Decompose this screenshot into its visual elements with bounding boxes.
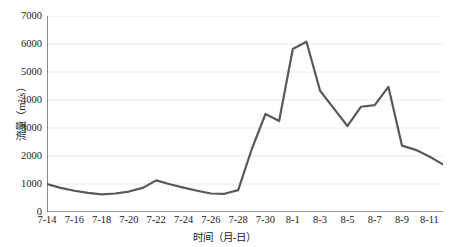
x-axis-title: 时间（月-日） [0,229,449,244]
y-axis-tick-labels: 01000200030004000500060007000 [6,0,42,247]
x-tick-label: 7-20 [119,214,138,225]
x-tick-label: 7-16 [65,214,84,225]
chart-svg [47,16,443,212]
x-tick-label: 7-18 [92,214,111,225]
y-tick-label: 3000 [8,123,42,133]
x-axis-tick-labels: 7-147-167-187-207-227-247-267-287-308-18… [47,214,443,230]
discharge-series-line [47,42,443,195]
x-tick-label: 7-26 [201,214,220,225]
x-tick-label: 8-11 [420,214,439,225]
x-tick-label: 8-9 [395,214,409,225]
x-tick-label: 8-1 [286,214,300,225]
y-tick-label: 2000 [8,151,42,161]
plot-area [47,16,443,212]
y-tick-label: 5000 [8,67,42,77]
x-tick-label: 8-3 [313,214,327,225]
x-tick-label: 7-22 [147,214,166,225]
x-tick-label: 7-14 [37,214,56,225]
y-tick-label: 6000 [8,39,42,49]
x-tick-label: 8-5 [340,214,354,225]
gridlines [47,16,443,184]
y-tick-label: 1000 [8,179,42,189]
flow-discharge-line-chart: 流量（m³/s） 01000200030004000500060007000 7… [0,0,449,247]
y-tick-label: 7000 [8,11,42,21]
x-tick-label: 7-30 [256,214,275,225]
x-tick-label: 7-24 [174,214,193,225]
x-tick-label: 8-7 [368,214,382,225]
x-tick-label: 7-28 [229,214,248,225]
y-tick-label: 4000 [8,95,42,105]
